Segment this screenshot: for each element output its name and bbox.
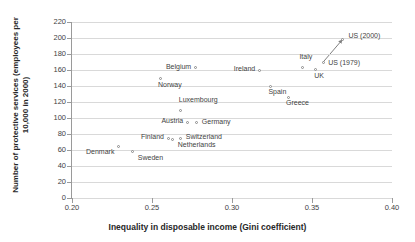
x-axis-tick xyxy=(392,198,393,203)
data-point-label: Ireland xyxy=(234,65,255,72)
data-point xyxy=(195,121,198,124)
data-point-label: Luxembourg xyxy=(179,96,218,103)
data-point-label: US (2000) xyxy=(348,32,380,39)
x-axis-tick-label: 0.30 xyxy=(212,204,252,212)
y-axis-tick xyxy=(67,54,72,55)
y-axis-tick xyxy=(67,22,72,23)
gridline xyxy=(72,150,392,151)
y-axis-tick-label: 20 xyxy=(40,178,66,186)
data-point xyxy=(301,66,304,69)
data-point xyxy=(186,121,189,124)
data-point xyxy=(258,69,261,72)
data-point-label: Greece xyxy=(286,99,309,106)
x-axis-title: Inequality in disposable income (Gini co… xyxy=(0,222,415,232)
y-axis-tick-label: 120 xyxy=(40,98,66,106)
data-point xyxy=(171,138,174,141)
y-axis-tick xyxy=(67,86,72,87)
x-axis-tick-label: 0.25 xyxy=(132,204,172,212)
y-axis-tick-label: 160 xyxy=(40,66,66,74)
x-axis-tick-label: 0.35 xyxy=(292,204,332,212)
y-axis-tick-label: 180 xyxy=(40,50,66,58)
data-point-label: Switzerland xyxy=(186,133,222,140)
data-point-label: Sweden xyxy=(138,154,163,161)
data-point-label: Norway xyxy=(158,81,182,88)
plot-area: DenmarkSwedenNorwayFinlandNetherlandsLux… xyxy=(72,22,392,198)
y-axis-tick xyxy=(67,150,72,151)
y-axis-tick-label: 100 xyxy=(40,114,66,122)
y-axis-title: Number of protective services (employees… xyxy=(11,10,31,200)
data-point-label: Netherlands xyxy=(178,141,216,148)
data-point-label: Italy xyxy=(299,53,312,60)
us-trend-arrow xyxy=(72,22,392,198)
y-axis-tick xyxy=(67,38,72,39)
y-axis-tick-label: 40 xyxy=(40,162,66,170)
gridline xyxy=(72,134,392,135)
data-point-label: US (1979) xyxy=(328,59,360,66)
gridline xyxy=(72,102,392,103)
x-axis-tick-label: 0.40 xyxy=(372,204,412,212)
y-axis-tick xyxy=(67,134,72,135)
y-axis-tick xyxy=(67,182,72,183)
y-axis-tick-label: 140 xyxy=(40,82,66,90)
data-point xyxy=(131,150,134,153)
gridline xyxy=(72,166,392,167)
data-point-label: Finland xyxy=(141,133,164,140)
data-point-label: Belgium xyxy=(166,63,191,70)
data-point xyxy=(314,68,317,71)
data-point xyxy=(341,38,344,41)
gridline xyxy=(72,118,392,119)
x-axis-tick xyxy=(232,198,233,203)
data-point-label: Germany xyxy=(202,118,231,125)
y-axis-tick xyxy=(67,118,72,119)
data-point xyxy=(194,66,197,69)
data-point xyxy=(322,61,325,64)
x-axis-tick xyxy=(72,198,73,203)
y-axis-tick-label: 60 xyxy=(40,146,66,154)
x-axis-tick xyxy=(312,198,313,203)
y-axis-tick-label: 80 xyxy=(40,130,66,138)
data-point-label: Austria xyxy=(161,117,183,124)
gridline xyxy=(72,86,392,87)
gridline xyxy=(72,54,392,55)
x-axis-tick xyxy=(152,198,153,203)
gridline xyxy=(72,182,392,183)
gridline xyxy=(72,38,392,39)
data-point xyxy=(167,137,170,140)
y-axis-tick-label: 0 xyxy=(40,194,66,202)
scatter-chart: Number of protective services (employees… xyxy=(0,0,415,242)
gridline xyxy=(72,22,392,23)
y-axis-tick xyxy=(67,102,72,103)
data-point-label: UK xyxy=(314,72,324,79)
data-point xyxy=(179,137,182,140)
y-axis-tick-label: 200 xyxy=(40,34,66,42)
data-point-label: Denmark xyxy=(86,148,114,155)
y-axis-tick xyxy=(67,166,72,167)
gridline xyxy=(72,70,392,71)
data-point xyxy=(179,109,182,112)
y-axis-tick xyxy=(67,70,72,71)
data-point xyxy=(117,145,120,148)
data-point-label: Spain xyxy=(268,88,286,95)
data-point xyxy=(159,77,162,80)
y-axis-tick-label: 220 xyxy=(40,18,66,26)
x-axis-tick-label: 0.20 xyxy=(52,204,92,212)
